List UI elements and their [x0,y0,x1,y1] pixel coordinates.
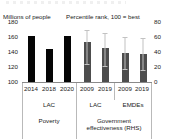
bar-slot-2020 [58,21,76,82]
xtick-lac-2019: 2019 [96,85,114,92]
xtick-2018: 2018 [40,85,58,92]
right-tick-20: 20 [154,64,173,70]
bar-gov-emdes-2019 [140,54,147,82]
errorbar-cap-low-emdes-2009 [123,69,128,70]
errorbar-lac-2019 [105,34,106,67]
top-clipped-artifact [6,1,126,4]
right-tick-0: 0 [154,79,173,85]
xtick-emdes-2009: 2009 [116,85,134,92]
bar-poverty-2020 [64,36,71,83]
errorbar-emdes-2009 [125,38,126,70]
x-axis-category-band: 2014 2018 2020 2009 2019 2009 2019 LAC L… [22,83,152,139]
right-tick-80: 80 [154,19,173,25]
errorbar-cap-high-emdes-2019 [141,38,146,39]
left-tick-120: 120 [0,64,18,70]
group-label-lac-poverty: LAC [22,101,76,108]
left-tick-100: 100 [0,79,18,85]
errorbar-cap-low-emdes-2019 [141,70,146,71]
group-label-emdes-gov: EMDEs [115,101,151,108]
errorbar-cap-high-emdes-2009 [123,37,128,38]
left-tick-180: 180 [0,19,18,25]
errorbar-cap-high-lac-2019 [103,33,108,34]
xtick-lac-2009: 2009 [78,85,96,92]
errorbar-cap-low-lac-2019 [103,66,108,67]
right-tick-40: 40 [154,49,173,55]
left-tick-160: 160 [0,34,18,40]
errorbar-cap-high-lac-2009 [85,30,90,31]
section-label-government-line2: effectiveness (RHS) [77,124,151,131]
bar-gov-emdes-2009 [122,53,129,82]
bar-slot-lac-2009 [78,21,96,82]
bar-gov-lac-2009 [84,42,91,82]
left-tick-140: 140 [0,49,18,55]
errorbar-cap-low-lac-2009 [85,64,90,65]
chart-figure: Millions of people Percentile rank, 100 … [0,0,173,139]
bar-slot-2018 [40,21,58,82]
bar-poverty-2014 [28,36,35,83]
group-label-lac-gov: LAC [77,101,114,108]
right-axis-title: Percentile rank, 100 = best [66,13,140,20]
bar-slot-emdes-2019 [134,21,152,82]
errorbar-lac-2009 [87,31,88,65]
plot-area [22,21,151,82]
right-tick-60: 60 [154,34,173,40]
section-label-poverty: Poverty [22,117,76,124]
bar-slot-2014 [22,21,40,82]
bar-gov-lac-2019 [102,48,109,82]
band-divider-right [151,83,152,139]
xtick-2014: 2014 [22,85,40,92]
band-divider-emdes [114,83,115,100]
bar-slot-lac-2019 [96,21,114,82]
errorbar-emdes-2019 [143,39,144,71]
xtick-2020: 2020 [58,85,76,92]
bar-slot-emdes-2009 [116,21,134,82]
xtick-emdes-2019: 2019 [133,85,151,92]
bar-poverty-2018 [46,49,53,82]
